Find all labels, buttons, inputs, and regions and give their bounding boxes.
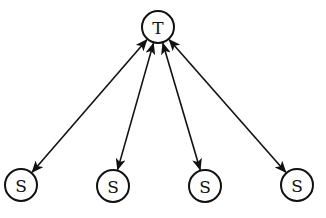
bidirectional-arrow-t-s2 <box>118 43 154 169</box>
node-s1: S <box>5 169 37 201</box>
edges-group <box>32 40 286 172</box>
node-s2: S <box>97 170 129 202</box>
node-t: T <box>142 11 174 43</box>
node-label: S <box>15 176 27 196</box>
node-label: S <box>199 177 211 197</box>
nodes-group: TSSSS <box>5 11 313 202</box>
diagram-canvas: TSSSS <box>0 0 326 218</box>
node-s4: S <box>281 169 313 201</box>
node-s3: S <box>189 170 221 202</box>
bidirectional-arrow-t-s1 <box>32 40 147 172</box>
bidirectional-arrow-t-s4 <box>169 40 286 172</box>
network-diagram: TSSSS <box>0 0 326 218</box>
bidirectional-arrow-t-s3 <box>163 43 200 169</box>
node-label: S <box>291 176 303 196</box>
node-label: T <box>152 18 164 38</box>
node-label: S <box>107 177 119 197</box>
